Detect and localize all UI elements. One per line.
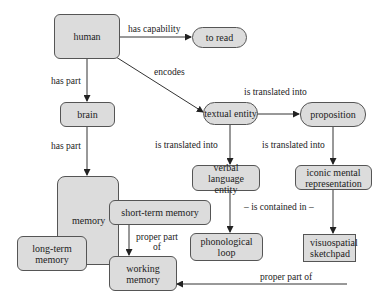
node-phonological-loop: phonological loop <box>190 233 263 261</box>
edge-label-is-translated-into-3: is translated into <box>262 140 325 150</box>
node-working-memory-label: working memory <box>120 263 166 285</box>
node-long-term-memory-label: long-term memory <box>28 243 76 265</box>
node-brain-label: brain <box>77 109 98 120</box>
edge-label-proper-part-of-2: proper part of <box>260 272 312 282</box>
node-long-term-memory: long-term memory <box>17 236 87 271</box>
edge-label-encodes: encodes <box>154 67 185 77</box>
node-to-read-label: to read <box>206 32 234 43</box>
node-iconic-mental-representation-label: iconic mental representation <box>300 167 367 189</box>
edge-label-proper-part-of-1-line1: proper part <box>133 232 181 242</box>
node-human: human <box>54 14 120 59</box>
node-to-read: to read <box>192 27 247 48</box>
edge-label-is-translated-into-2: is translated into <box>155 140 218 150</box>
node-memory-label: memory <box>72 215 105 226</box>
edge-human-textual-entity <box>116 57 203 112</box>
node-human-label: human <box>73 31 100 42</box>
node-short-term-memory: short-term memory <box>109 200 211 225</box>
annotation-is-contained-in: – is contained in – <box>244 202 314 212</box>
node-visuospatial-sketchpad: visuospatial sketchpad <box>303 234 356 262</box>
node-textual-entity-label: textual entity <box>204 108 257 119</box>
edge-label-proper-part-of-1-line2: of <box>133 242 181 252</box>
node-phonological-loop-label: phonological loop <box>191 236 262 258</box>
edge-label-has-capability: has capability <box>128 24 181 34</box>
node-proposition: proposition <box>300 102 366 127</box>
node-working-memory: working memory <box>109 256 177 291</box>
node-brain: brain <box>60 102 115 127</box>
edge-label-is-translated-into-1: is translated into <box>244 87 307 97</box>
edge-label-proper-part-of-1: proper part of <box>133 232 181 252</box>
node-verbal-language-entity-label: verbal language entity <box>199 162 253 195</box>
node-verbal-language-entity: verbal language entity <box>192 165 260 191</box>
node-textual-entity: textual entity <box>203 102 258 125</box>
node-iconic-mental-representation: iconic mental representation <box>295 165 372 190</box>
node-visuospatial-sketchpad-label: visuospatial sketchpad <box>310 237 358 259</box>
node-short-term-memory-label: short-term memory <box>121 207 198 218</box>
node-proposition-label: proposition <box>310 109 356 120</box>
edge-label-has-part-2: has part <box>51 141 81 151</box>
edge-label-has-part-1: has part <box>51 76 81 86</box>
